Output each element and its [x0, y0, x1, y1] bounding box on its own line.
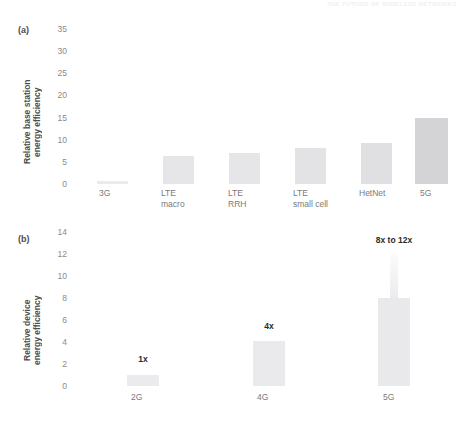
y-tick-a-20: 20 [58, 90, 67, 100]
bar-hetnet [361, 143, 392, 184]
chart-panel-b: (b) Relative device energy efficiency 14… [0, 222, 463, 421]
x-tick-a-3g: 3G [99, 188, 110, 199]
y-tick-b-12: 12 [58, 249, 67, 259]
y-tick-a-25: 25 [58, 68, 67, 78]
y-tick-a-10: 10 [58, 135, 67, 145]
y-tick-a-35: 35 [58, 24, 67, 34]
x-tick-b-5g: 5G [383, 392, 394, 403]
y-tick-b-0: 0 [62, 381, 67, 391]
y-tick-a-0: 0 [62, 179, 67, 189]
annotation-4g: 4x [253, 321, 285, 331]
y-tick-b-4: 4 [62, 337, 67, 347]
x-tick-b-2g: 2G [131, 392, 142, 403]
bar-5g-range-extension [390, 254, 398, 298]
y-tick-a-5: 5 [62, 157, 67, 167]
bar-5g [378, 298, 410, 386]
y-axis-title-b: Relative device energy efficiency [22, 270, 42, 390]
x-tick-a-lte-rrh: LTE RRH [228, 188, 246, 210]
y-tick-b-8: 8 [62, 293, 67, 303]
x-tick-a-hetnet: HetNet [359, 188, 385, 199]
bar-3g [97, 181, 128, 184]
y-tick-b-6: 6 [62, 315, 67, 325]
y-tick-a-15: 15 [58, 113, 67, 123]
y-tick-b-10: 10 [58, 271, 67, 281]
x-tick-a-lte-small-cell: LTE small cell [293, 188, 328, 210]
x-tick-a-lte-macro: LTE macro [161, 188, 185, 210]
y-axis-title-a: Relative base station energy efficiency [22, 62, 42, 182]
bar-lte-small-cell [295, 148, 326, 184]
chart-panel-a: (a) Relative base station energy efficie… [0, 12, 463, 212]
x-tick-b-4g: 4G [257, 392, 268, 403]
bar-lte-macro [163, 156, 194, 184]
bar-5g [415, 118, 448, 184]
panel-label-b: (b) [18, 234, 30, 244]
annotation-2g: 1x [127, 354, 159, 364]
panel-label-a: (a) [18, 25, 29, 35]
running-header: THE FUTURE OF WIRELESS NETWORKS [327, 1, 457, 7]
y-tick-b-2: 2 [62, 359, 67, 369]
x-tick-a-5g: 5G [420, 188, 431, 199]
plot-area-a: 35 30 25 20 15 10 5 0 3G LTE macro LTE R… [73, 29, 455, 184]
plot-area-b: 14 12 10 8 6 4 2 0 1x 4x 8x to 12x 2G 4G… [73, 232, 455, 386]
bar-2g [127, 375, 159, 386]
y-tick-a-30: 30 [58, 46, 67, 56]
bar-4g [253, 341, 285, 386]
y-tick-b-14: 14 [58, 227, 67, 237]
bar-lte-rrh [229, 153, 260, 184]
annotation-5g: 8x to 12x [360, 235, 428, 245]
